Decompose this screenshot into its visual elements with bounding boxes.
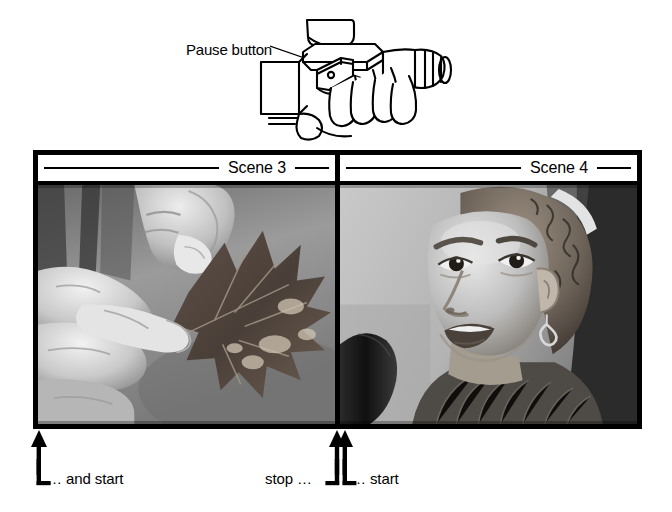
scene-title-4: Scene 4	[521, 159, 597, 177]
camcorder-in-hand-icon	[255, 18, 455, 144]
scenes-header-row: Scene 3 Scene 4	[38, 155, 637, 185]
header-rule-left	[346, 167, 521, 169]
header-rule-right	[295, 167, 329, 169]
girl-speaking-into-microphone-photo	[340, 185, 637, 424]
illustration-block: Pause button	[0, 0, 672, 148]
marker-caption-and-start: … and start	[47, 470, 123, 487]
header-rule-right	[597, 167, 631, 169]
scenes-photo-row	[38, 185, 637, 424]
marker-caption-start: … start	[351, 470, 399, 487]
timeline-markers-layer: … and start stop … … start	[0, 429, 672, 512]
scene-header-scene-4: Scene 4	[335, 155, 637, 181]
header-rule-left	[44, 167, 219, 169]
scene-photo-scene-4	[335, 185, 637, 424]
hands-holding-leaf-photo	[38, 185, 335, 424]
marker-caption-stop: stop …	[265, 470, 312, 487]
scene-title-3: Scene 3	[219, 159, 295, 177]
scenes-frame: Scene 3 Scene 4	[33, 150, 642, 429]
scene-header-scene-3: Scene 3	[38, 155, 335, 181]
scene-photo-scene-3	[38, 185, 335, 424]
